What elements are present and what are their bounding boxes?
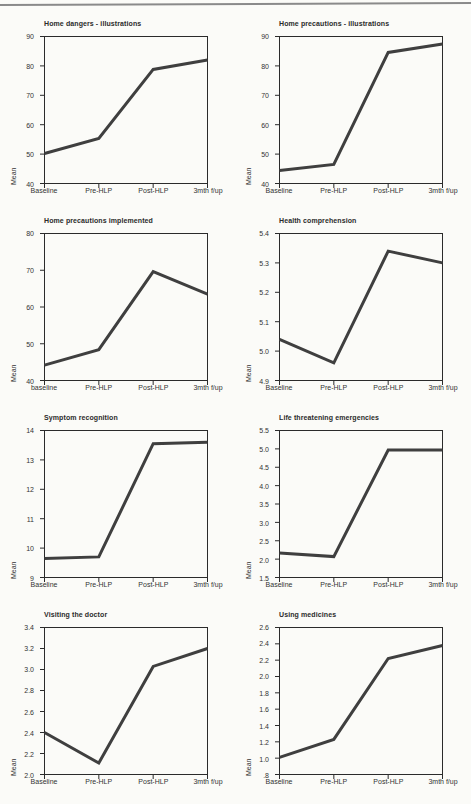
chart-home-precautions-implemented: Home precautions implemented 4050607080 … [0,213,235,410]
y-tick-label: 70 [261,92,269,99]
y-tick-label: 3.5 [259,501,269,508]
series-line [45,649,208,764]
x-tick-label: 3mth f/up [193,778,222,785]
y-tick-label: 1.8 [259,689,269,696]
plot-frame [45,628,208,775]
chart-life-threatening-emergencies: Life threatening emergencies 1.52.02.53.… [235,410,471,607]
y-axis-tick-labels: 1.52.02.53.03.54.04.55.05.5 [235,430,275,578]
chart-symptom-recognition: Symptom recognition 91011121314 Baseline… [0,410,235,607]
chart-health-comprehension: Health comprehension 4.95.05.15.25.35.4 … [235,213,471,410]
y-tick-label: 5.0 [259,445,269,452]
line-plot [44,627,208,775]
page-top-rule [0,2,471,6]
series-line [280,44,443,171]
x-tick-label: Post-HLP [373,384,403,391]
chart-visiting-the-doctor: Visiting the doctor 2.02.22.42.62.83.03.… [0,607,235,804]
x-axis-tick-labels: baselinePre-HLPPost-HLP3mth f/up [44,384,208,394]
x-axis-tick-labels: BaselinePre-HLPPost-HLP3mth f/up [44,581,208,591]
y-tick-label: 80 [261,62,269,69]
x-tick-label: Pre-HLP [320,778,347,785]
charts-grid: Home dangers - illustrations 40506070809… [0,16,471,804]
x-tick-label: 3mth f/up [428,581,457,588]
y-tick-label: 2.8 [24,687,34,694]
chart-home-precautions-illustrations: Home precautions - illustrations 4050607… [235,16,471,213]
y-tick-label: 5.0 [259,348,269,355]
y-axis-title: Mean [245,561,252,579]
y-tick-label: 5.1 [259,318,269,325]
x-axis-tick-labels: BaselinePre-HLPPost-HLP3mth f/up [44,778,208,788]
scanned-page: { "page": { "line_color": "#3f3f3f", "fr… [0,0,471,804]
x-tick-label: Pre-HLP [320,384,347,391]
chart-home-dangers-illustrations: Home dangers - illustrations 40506070809… [0,16,235,213]
y-tick-label: 60 [26,304,34,311]
y-axis-title: Mean [10,561,17,579]
y-tick-label: 60 [261,121,269,128]
y-axis-title: Mean [245,758,252,776]
y-tick-label: 14 [26,427,34,434]
x-axis-tick-labels: BaselinePre-HLPPost-HLP3mth f/up [279,581,443,591]
y-tick-label: 5.5 [259,427,269,434]
x-tick-label: Pre-HLP [320,187,347,194]
y-tick-label: 70 [26,267,34,274]
y-tick-label: 3.0 [259,519,269,526]
x-tick-label: Post-HLP [373,187,403,194]
y-axis-tick-labels: 405060708090 [235,36,275,184]
y-tick-label: 2.6 [24,708,34,715]
series-line [45,272,208,365]
line-plot [279,430,443,578]
chart-title: Life threatening emergencies [279,414,379,421]
x-tick-label: 3mth f/up [193,581,222,588]
series-line [280,251,443,363]
chart-title: Health comprehension [279,217,356,224]
x-tick-label: Baseline [31,187,58,194]
y-tick-label: 5.3 [259,259,269,266]
x-tick-label: 3mth f/up [428,778,457,785]
y-tick-label: 5.2 [259,289,269,296]
x-tick-label: Baseline [266,778,293,785]
x-tick-label: Post-HLP [373,778,403,785]
y-tick-label: 2.0 [259,673,269,680]
y-tick-label: 2.2 [24,750,34,757]
line-plot [279,36,443,184]
chart-title: Using medicines [279,611,336,618]
y-tick-label: 4.0 [259,482,269,489]
y-tick-label: 2.4 [259,640,269,647]
y-tick-label: 1.6 [259,706,269,713]
series-line [280,450,443,557]
y-tick-label: 5.4 [259,230,269,237]
x-tick-label: Baseline [31,581,58,588]
y-tick-label: 10 [26,545,34,552]
x-tick-label: Post-HLP [138,581,168,588]
plot-frame [45,37,208,184]
x-tick-label: Post-HLP [138,778,168,785]
x-tick-label: Pre-HLP [85,581,112,588]
x-tick-label: Baseline [266,384,293,391]
y-axis-title: Mean [10,758,17,776]
y-tick-label: 3.2 [24,645,34,652]
series-line [45,442,208,558]
y-tick-label: 80 [26,62,34,69]
y-tick-label: 50 [26,341,34,348]
y-axis-tick-labels: 405060708090 [0,36,40,184]
y-tick-label: 2.4 [24,729,34,736]
y-tick-label: 2.2 [259,656,269,663]
y-axis-tick-labels: 91011121314 [0,430,40,578]
y-tick-label: 3.0 [24,666,34,673]
line-plot [44,233,208,381]
y-tick-label: 50 [26,151,34,158]
y-tick-label: 50 [261,151,269,158]
line-plot [44,36,208,184]
x-tick-label: Pre-HLP [320,581,347,588]
y-tick-label: 70 [26,92,34,99]
x-tick-label: 3mth f/up [193,384,222,391]
x-tick-label: 3mth f/up [193,187,222,194]
x-axis-tick-labels: BaselinePre-HLPPost-HLP3mth f/up [44,187,208,197]
x-tick-label: Post-HLP [138,384,168,391]
line-plot [44,430,208,578]
chart-title: Home precautions implemented [44,217,153,224]
y-tick-label: 90 [26,33,34,40]
x-tick-label: Pre-HLP [85,187,112,194]
y-axis-title: Mean [245,167,252,185]
line-plot [279,233,443,381]
y-axis-tick-labels: 2.02.22.42.62.83.03.23.4 [0,627,40,775]
